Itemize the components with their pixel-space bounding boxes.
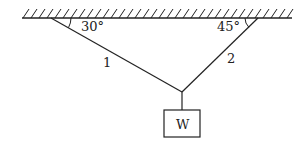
weight-label: W xyxy=(176,117,190,132)
angle-label-left: 30° xyxy=(81,19,104,34)
angle-label-right: 45° xyxy=(217,19,240,34)
ceiling xyxy=(22,9,293,18)
cable-2-label: 2 xyxy=(227,51,235,66)
ceiling-hatching xyxy=(23,9,293,18)
cable-1-label: 1 xyxy=(103,55,111,70)
angle-arc-left xyxy=(69,18,72,28)
angle-arc-right xyxy=(245,18,249,27)
cable-1 xyxy=(51,18,182,92)
statics-diagram: 30° 45° 1 2 W xyxy=(0,0,304,145)
